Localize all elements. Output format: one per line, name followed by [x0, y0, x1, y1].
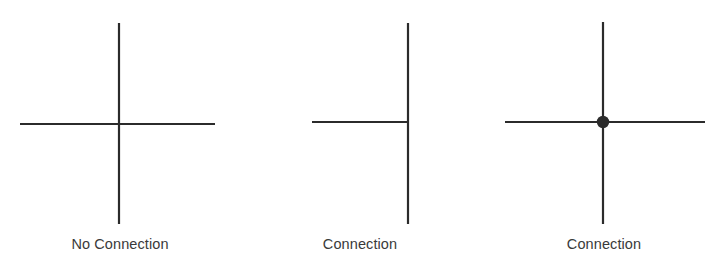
tee-connection-diagram	[240, 0, 480, 236]
wire-junction-figure-board: No Connection Connection Connection	[0, 0, 728, 270]
caption-dot-connection: Connection	[480, 236, 728, 252]
figure-dot-connection: Connection	[480, 0, 728, 270]
no-connection-diagram	[0, 0, 240, 236]
caption-tee-connection: Connection	[240, 236, 480, 252]
figure-no-connection: No Connection	[0, 0, 240, 270]
caption-no-connection: No Connection	[0, 236, 240, 252]
junction-dot-icon	[597, 116, 609, 128]
figure-tee-connection: Connection	[240, 0, 480, 270]
dot-connection-diagram	[480, 0, 728, 236]
